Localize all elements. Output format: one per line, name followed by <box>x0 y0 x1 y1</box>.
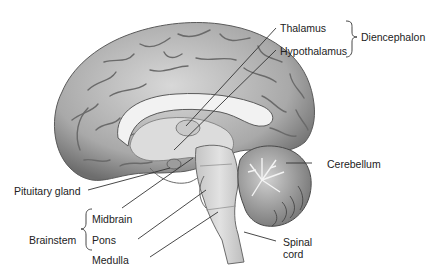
diencephalon-brace <box>346 21 357 57</box>
label-midbrain: Midbrain <box>92 213 132 225</box>
label-pituitary-gland: Pituitary gland <box>14 185 81 197</box>
label-diencephalon: Diencephalon <box>361 31 425 43</box>
label-cerebellum: Cerebellum <box>327 158 381 170</box>
label-medulla: Medulla <box>92 254 129 266</box>
brainstem <box>195 145 244 264</box>
label-spinal-cord-line2: cord <box>283 248 303 260</box>
cerebellum <box>238 146 311 226</box>
brain-diagram: Thalamus Hypothalamus Diencephalon Cereb… <box>0 0 435 274</box>
label-brainstem: Brainstem <box>29 234 76 246</box>
leader-medulla <box>150 212 218 257</box>
label-pons: Pons <box>92 234 116 246</box>
leader-spinal-cord <box>244 232 276 241</box>
brainstem-brace <box>81 209 92 250</box>
label-hypothalamus: Hypothalamus <box>280 45 347 57</box>
label-thalamus: Thalamus <box>280 22 326 34</box>
leader-pons <box>138 190 206 239</box>
label-spinal-cord-line1: Spinal <box>283 236 312 248</box>
